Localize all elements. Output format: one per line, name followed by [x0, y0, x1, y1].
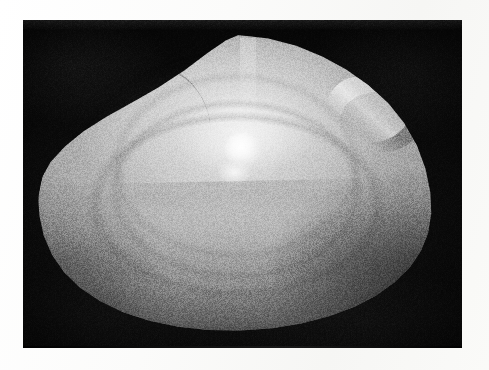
clam-shell-valve	[37, 35, 436, 333]
figure-root: Black-and-white photograph of a single b…	[0, 0, 489, 370]
figure-description: Black-and-white photograph of a single b…	[0, 0, 1, 1]
shell-subject	[23, 20, 462, 348]
dorsal-ridge-left	[71, 61, 210, 136]
growth-ring-middle	[53, 59, 420, 321]
dorsal-ridge-right	[322, 74, 414, 146]
umbo-crease	[240, 38, 256, 127]
shell-shadow-left	[37, 35, 436, 333]
growth-ring-inner	[77, 47, 396, 285]
growth-ring-outer	[41, 83, 432, 327]
shell-shadow-ventral	[37, 232, 436, 333]
dorsal-ridge-right-shadow	[338, 89, 422, 154]
growth-band-lip	[45, 165, 428, 194]
growth-band-major	[29, 177, 445, 221]
specular-highlight-primary	[225, 133, 261, 166]
specular-highlight-secondary	[219, 162, 251, 183]
photograph	[23, 20, 462, 348]
specular-halo	[197, 115, 285, 187]
shell-shadow-right	[37, 35, 436, 333]
